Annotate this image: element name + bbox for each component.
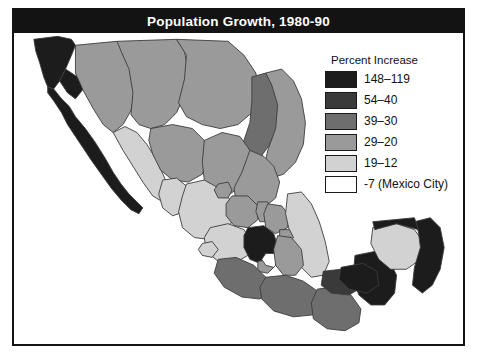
page-title: Population Growth, 1980-90 [147,14,330,29]
legend-label-mid: 29–20 [364,135,397,149]
legend-label-low: 19–12 [364,156,397,170]
legend-swatch-upper-mid [325,113,357,130]
legend-label-negative: -7 (Mexico City) [364,177,448,191]
legend-label-upper-mid: 39–30 [364,114,397,128]
legend-title: Percent Increase [331,54,475,66]
legend-label-highest: 148–119 [364,72,410,86]
legend-swatch-negative [325,176,357,193]
legend-item-low: 19–12 [325,153,475,173]
map-figure: Population Growth, 1980-90 Percent Incre… [12,8,465,346]
map-title-bar: Population Growth, 1980-90 [14,10,463,33]
legend-item-highest: 148–119 [325,69,475,89]
legend-item-negative: -7 (Mexico City) [325,174,475,194]
legend-item-upper-mid: 39–30 [325,111,475,131]
legend-rows: 148–11954–4039–3029–2019–12-7 (Mexico Ci… [325,69,475,194]
legend-swatch-highest [325,71,357,88]
legend-swatch-low [325,155,357,172]
map-legend: Percent Increase 148–11954–4039–3029–201… [325,54,475,195]
map-region-coahuila [177,39,260,128]
legend-swatch-high [325,92,357,109]
legend-item-mid: 29–20 [325,132,475,152]
legend-label-high: 54–40 [364,93,397,107]
legend-item-high: 54–40 [325,90,475,110]
legend-swatch-mid [325,134,357,151]
